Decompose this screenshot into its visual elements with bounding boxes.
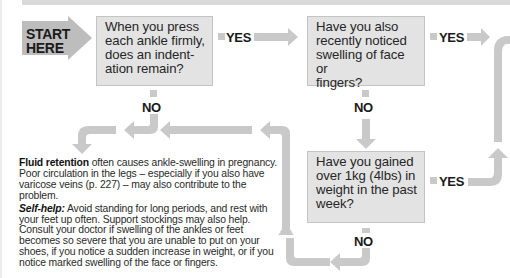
right-column-connector — [494, 36, 510, 142]
arrow-q1-yes-to-q2 — [254, 28, 298, 46]
q2-no-label: NO — [354, 100, 373, 115]
q3-yes-stub — [430, 177, 437, 184]
outcome-text-block: Fluid retention often causes ankle-swell… — [19, 158, 281, 271]
arrow-q3-yes-up — [468, 148, 508, 186]
q1-yes-stub — [218, 33, 225, 40]
arrow-to-outcome — [72, 126, 116, 154]
question-box-weight-gain: Have you gained over 1kg (4lbs) in weigh… — [307, 151, 425, 223]
q3-yes-label: YES — [439, 174, 464, 189]
arrow-q1-no-left — [124, 114, 158, 139]
q2-no-stub — [362, 90, 369, 97]
q1-yes-label: YES — [226, 30, 251, 45]
arrow-q2-no-down — [356, 119, 376, 149]
self-help-heading: Self-help: — [19, 203, 65, 214]
question-box-face-swelling: Have you also recently noticed swelling … — [307, 16, 425, 86]
start-here-label: START HERE — [26, 27, 70, 55]
q2-yes-stub — [430, 33, 437, 40]
question-box-ankle-indentation: When you press each ankle firmly, does a… — [96, 16, 213, 86]
self-help-paragraph: Self-help: Avoid standing for long perio… — [19, 204, 281, 269]
arrow-loop-horizontal-left — [160, 121, 252, 139]
q1-no-stub — [150, 90, 157, 97]
fluid-retention-heading: Fluid retention — [19, 157, 89, 168]
q1-no-label: NO — [142, 100, 161, 115]
arrow-q2-yes-right — [467, 28, 490, 46]
q2-yes-label: YES — [439, 30, 464, 45]
q3-no-label: NO — [354, 234, 373, 249]
fluid-retention-paragraph: Fluid retention often causes ankle-swell… — [19, 158, 281, 202]
